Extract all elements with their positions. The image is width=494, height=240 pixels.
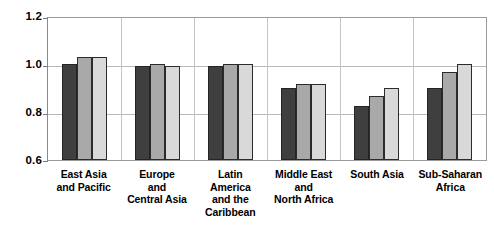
y-axis-tick-labels: 0.60.81.01.2 xyxy=(0,0,42,240)
x-axis-category-label: EuropeandCentral Asia xyxy=(120,168,193,238)
bar xyxy=(442,72,457,160)
category-label-line: South Asia xyxy=(341,168,412,181)
x-axis-category-label: South Asia xyxy=(340,168,413,238)
bar xyxy=(311,84,326,160)
bar xyxy=(427,88,442,160)
x-axis-category-label: East Asiaand Pacific xyxy=(47,168,120,238)
bar xyxy=(354,106,369,160)
bar xyxy=(135,66,150,160)
bar xyxy=(223,64,238,160)
bar xyxy=(208,66,223,160)
y-axis-tick-label: 1.0 xyxy=(0,59,42,71)
bar xyxy=(296,84,311,160)
y-axis-tick-label: 0.6 xyxy=(0,155,42,167)
category-label-line: East Asia xyxy=(48,168,119,181)
y-axis-tick-label: 1.2 xyxy=(0,11,42,23)
y-axis-tick-label: 0.8 xyxy=(0,107,42,119)
bar-group xyxy=(340,18,413,160)
category-label-line: Europe xyxy=(121,168,192,181)
bar xyxy=(77,57,92,160)
category-label-line: Middle East xyxy=(268,168,339,181)
bar-group xyxy=(413,18,486,160)
category-label-line: Latin xyxy=(195,168,266,181)
category-label-line: and Pacific xyxy=(48,181,119,194)
x-axis-category-labels: East Asiaand PacificEuropeandCentral Asi… xyxy=(47,168,487,238)
category-label-line: and xyxy=(121,181,192,194)
bar xyxy=(165,66,180,160)
x-axis-category-label: Sub-SaharanAfrica xyxy=(414,168,487,238)
category-label-line: America xyxy=(195,181,266,194)
bar-group xyxy=(194,18,267,160)
bar-group xyxy=(267,18,340,160)
x-axis-category-label: Middle EastandNorth Africa xyxy=(267,168,340,238)
bar xyxy=(238,64,253,160)
bar xyxy=(384,88,399,160)
bar-group xyxy=(48,18,121,160)
category-label-line: North Africa xyxy=(268,193,339,206)
category-label-line: Caribbean xyxy=(195,206,266,219)
bar xyxy=(369,96,384,160)
bar xyxy=(281,88,296,160)
category-label-line: Central Asia xyxy=(121,193,192,206)
bar xyxy=(62,64,77,160)
bar-chart-figure: 0.60.81.01.2 East Asiaand PacificEuropea… xyxy=(0,0,494,240)
bar xyxy=(150,64,165,160)
bar xyxy=(457,64,472,160)
category-label-line: Africa xyxy=(415,181,486,194)
bar xyxy=(92,57,107,160)
y-axis-tick-mark xyxy=(43,161,48,162)
category-label-line: Sub-Saharan xyxy=(415,168,486,181)
bar-group xyxy=(121,18,194,160)
bar-groups xyxy=(48,18,486,160)
category-label-line: and xyxy=(268,181,339,194)
category-label-line: and the xyxy=(195,193,266,206)
plot-area xyxy=(47,17,487,161)
x-axis-category-label: LatinAmericaand theCaribbean xyxy=(194,168,267,238)
